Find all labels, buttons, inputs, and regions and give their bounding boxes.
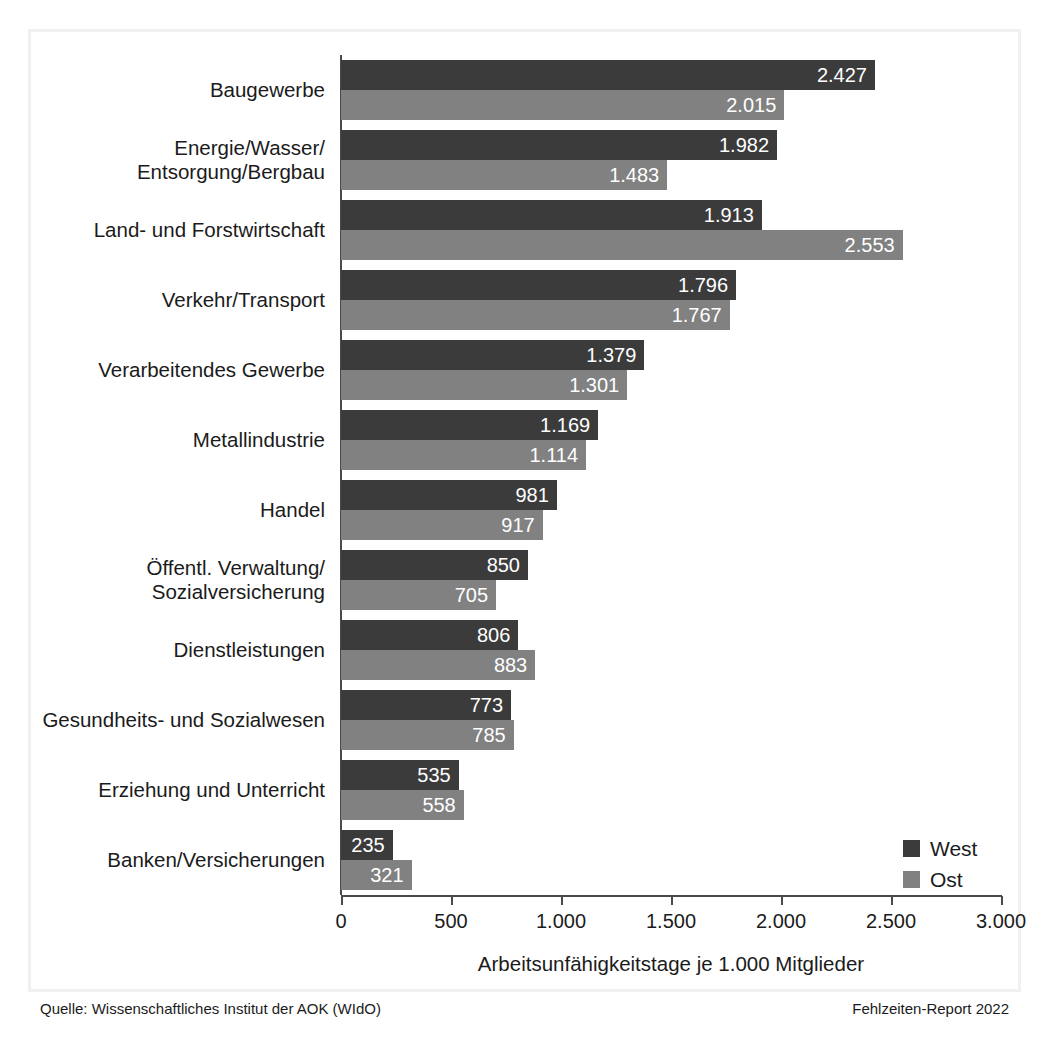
bar-value-label: 850 — [487, 555, 520, 575]
bar-value-label: 1.796 — [678, 275, 728, 295]
bar-value-label: 773 — [470, 695, 503, 715]
bar-west[interactable]: 1.169 — [341, 410, 598, 440]
bar-value-label: 785 — [472, 725, 505, 745]
bar-west[interactable]: 1.796 — [341, 270, 736, 300]
bar-group: 806883 — [341, 620, 1001, 680]
bar-row: 1.767 — [341, 300, 1001, 330]
bar-group: 1.9132.553 — [341, 200, 1001, 260]
chart-legend: WestOst — [903, 833, 977, 895]
category-label: Handel — [260, 498, 325, 522]
category-label: Dienstleistungen — [173, 638, 325, 662]
bar-value-label: 883 — [494, 655, 527, 675]
category-label: Öffentl. Verwaltung/ Sozialversicherung — [146, 556, 325, 604]
axis-tick — [781, 896, 783, 905]
bar-row: 535 — [341, 760, 1001, 790]
axis-tick-label: 3.000 — [976, 910, 1026, 933]
bar-value-label: 2.015 — [726, 95, 776, 115]
footer-report: Fehlzeiten-Report 2022 — [852, 1000, 1009, 1017]
bar-row: 1.114 — [341, 440, 1001, 470]
bar-value-label: 2.427 — [817, 65, 867, 85]
bar-value-label: 806 — [477, 625, 510, 645]
bar-ost[interactable]: 1.767 — [341, 300, 730, 330]
bar-row: 1.982 — [341, 130, 1001, 160]
axis-tick — [451, 896, 453, 905]
bar-row: 1.379 — [341, 340, 1001, 370]
bar-row: 2.427 — [341, 60, 1001, 90]
bar-value-label: 1.301 — [569, 375, 619, 395]
bar-value-label: 2.553 — [845, 235, 895, 255]
bar-ost[interactable]: 785 — [341, 720, 514, 750]
bar-west[interactable]: 1.982 — [341, 130, 777, 160]
legend-item-ost[interactable]: Ost — [903, 864, 977, 895]
bar-row: 850 — [341, 550, 1001, 580]
bar-west[interactable]: 235 — [341, 830, 393, 860]
bar-row: 235 — [341, 830, 1001, 860]
bar-ost[interactable]: 1.301 — [341, 370, 627, 400]
bar-value-label: 558 — [422, 795, 455, 815]
bar-row: 2.015 — [341, 90, 1001, 120]
bar-ost[interactable]: 883 — [341, 650, 535, 680]
bar-value-label: 321 — [370, 865, 403, 885]
category-label: Erziehung und Unterricht — [98, 778, 325, 802]
bar-row: 1.169 — [341, 410, 1001, 440]
bar-ost[interactable]: 917 — [341, 510, 543, 540]
category-label: Baugewerbe — [210, 78, 325, 102]
bar-ost[interactable]: 2.015 — [341, 90, 784, 120]
bar-west[interactable]: 1.913 — [341, 200, 762, 230]
bar-west[interactable]: 806 — [341, 620, 518, 650]
bar-value-label: 1.913 — [704, 205, 754, 225]
axis-tick-label: 2.500 — [866, 910, 916, 933]
bar-row: 1.913 — [341, 200, 1001, 230]
bar-row: 785 — [341, 720, 1001, 750]
legend-swatch-icon — [903, 871, 920, 888]
category-label: Land- und Forstwirtschaft — [94, 218, 325, 242]
bar-group: 1.1691.114 — [341, 410, 1001, 470]
bar-west[interactable]: 773 — [341, 690, 511, 720]
bar-ost[interactable]: 1.114 — [341, 440, 586, 470]
bar-group: 1.7961.767 — [341, 270, 1001, 330]
plot-area: 2.4272.0151.9821.4831.9132.5531.7961.767… — [341, 55, 1001, 895]
category-label: Metallindustrie — [193, 428, 325, 452]
bar-value-label: 535 — [417, 765, 450, 785]
bar-row: 2.553 — [341, 230, 1001, 260]
axis-tick-label: 1.000 — [536, 910, 586, 933]
axis-tick — [341, 896, 343, 905]
bar-value-label: 981 — [515, 485, 548, 505]
category-label: Energie/Wasser/ Entsorgung/Bergbau — [137, 136, 325, 184]
legend-label: Ost — [930, 868, 963, 892]
bar-row: 1.301 — [341, 370, 1001, 400]
bar-west[interactable]: 1.379 — [341, 340, 644, 370]
bar-value-label: 1.114 — [530, 445, 579, 465]
bar-group: 1.3791.301 — [341, 340, 1001, 400]
footer-source: Quelle: Wissenschaftliches Institut der … — [40, 1000, 381, 1017]
category-label: Gesundheits- und Sozialwesen — [42, 708, 325, 732]
bar-ost[interactable]: 321 — [341, 860, 412, 890]
axis-tick — [1001, 896, 1003, 905]
bar-value-label: 917 — [501, 515, 534, 535]
bar-ost[interactable]: 1.483 — [341, 160, 667, 190]
bar-row: 883 — [341, 650, 1001, 680]
category-axis-labels: BaugewerbeEnergie/Wasser/ Entsorgung/Ber… — [0, 55, 325, 895]
axis-tick — [671, 896, 673, 905]
x-axis-title: Arbeitsunfähigkeitstage je 1.000 Mitglie… — [341, 952, 1001, 976]
bar-west[interactable]: 535 — [341, 760, 459, 790]
axis-tick — [891, 896, 893, 905]
bar-group: 1.9821.483 — [341, 130, 1001, 190]
bar-ost[interactable]: 2.553 — [341, 230, 903, 260]
category-label: Verkehr/Transport — [162, 288, 325, 312]
bar-west[interactable]: 981 — [341, 480, 557, 510]
bar-value-label: 1.379 — [586, 345, 636, 365]
bar-west[interactable]: 2.427 — [341, 60, 875, 90]
axis-tick-label: 500 — [434, 910, 467, 933]
bar-group: 981917 — [341, 480, 1001, 540]
bar-ost[interactable]: 705 — [341, 580, 496, 610]
bar-row: 321 — [341, 860, 1001, 890]
bar-ost[interactable]: 558 — [341, 790, 464, 820]
bar-row: 1.796 — [341, 270, 1001, 300]
legend-label: West — [930, 837, 977, 861]
bar-row: 773 — [341, 690, 1001, 720]
legend-item-west[interactable]: West — [903, 833, 977, 864]
axis-tick — [561, 896, 563, 905]
bar-west[interactable]: 850 — [341, 550, 528, 580]
bar-group: 850705 — [341, 550, 1001, 610]
